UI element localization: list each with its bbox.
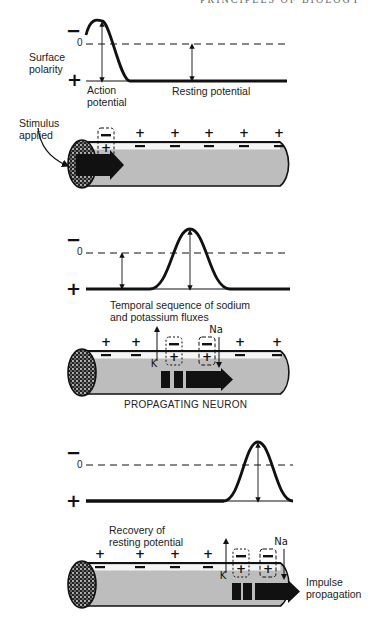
potassium-label: K: [220, 570, 227, 581]
box-minus-sign: [169, 343, 179, 345]
impulse-propagation-label: Impulse propagation: [306, 576, 361, 600]
axis-plus-2: +: [66, 280, 81, 298]
inner-minus-sign: [239, 145, 249, 147]
axon-cross-section: [68, 349, 96, 396]
recovery-caption: Recovery of resting potential: [109, 524, 183, 548]
axis-plus-3: +: [66, 492, 81, 510]
outer-plus-sign: +: [101, 335, 111, 349]
potential-curve: [86, 229, 290, 289]
box-plus-sign: +: [101, 141, 111, 155]
box-minus-sign: [202, 343, 212, 345]
inner-minus-sign: [235, 354, 245, 356]
current-block: [232, 583, 241, 600]
inner-minus-sign: [170, 566, 180, 568]
box-minus-sign: [263, 555, 273, 557]
inner-minus-sign: [272, 354, 282, 356]
outer-plus-sign: +: [131, 335, 141, 349]
box-plus-sign: +: [202, 350, 212, 364]
box-plus-sign: +: [169, 350, 179, 364]
axon-membrane-highlight: [82, 565, 281, 571]
outer-plus-sign: +: [274, 126, 284, 140]
outer-plus-sign: +: [170, 547, 180, 561]
potential-curve: [86, 442, 293, 501]
inner-minus-sign: [204, 145, 214, 147]
stimulus-applied-label: Stimulus applied: [19, 117, 59, 141]
inner-minus-sign: [274, 145, 284, 147]
outer-plus-sign: +: [235, 335, 245, 349]
graph-panel-1: [86, 20, 287, 81]
box-minus-sign: [236, 555, 246, 557]
sodium-label: Na: [274, 536, 288, 547]
box-plus-sign: +: [263, 562, 273, 576]
outer-plus-sign: +: [95, 547, 105, 561]
neuron-propagating: ++++KNa++: [68, 324, 289, 396]
axis-zero-1: 0: [77, 37, 83, 48]
current-block: [161, 371, 170, 388]
current-block: [174, 371, 183, 388]
flux-caption: Temporal sequence of sodium and potassiu…: [110, 299, 250, 323]
potential-curve: [86, 20, 287, 81]
axis-zero-3: 0: [77, 459, 83, 470]
neuron-stimulus: ++++++: [68, 126, 289, 188]
impulse-arrow: [255, 580, 300, 603]
inner-minus-sign: [131, 354, 141, 356]
inner-minus-sign: [203, 566, 213, 568]
potassium-label: K: [151, 358, 158, 369]
inner-minus-sign: [135, 145, 145, 147]
graph-panel-3: [86, 442, 293, 501]
outer-plus-sign: +: [203, 547, 213, 561]
outer-plus-sign: +: [170, 126, 180, 140]
box-minus-sign: [101, 134, 111, 136]
inner-minus-sign: [170, 145, 180, 147]
outer-plus-sign: +: [239, 126, 249, 140]
neuron-recovery: ++++KNa++: [68, 536, 300, 608]
graph-panel-2: [86, 229, 290, 289]
surface-polarity-label: Surface polarity: [29, 51, 65, 75]
resting-potential-label: Resting potential: [172, 85, 250, 97]
inner-minus-sign: [101, 354, 111, 356]
propagating-neuron-title: PROPAGATING NEURON: [124, 399, 247, 411]
outer-plus-sign: +: [135, 126, 145, 140]
inner-minus-sign: [95, 566, 105, 568]
axis-zero-2: 0: [77, 246, 83, 257]
axon-membrane-highlight: [82, 144, 280, 150]
outer-plus-sign: +: [204, 126, 214, 140]
axon-membrane-highlight: [82, 353, 281, 359]
inner-minus-sign: [135, 566, 145, 568]
action-potential-figure: PRINCIPLES OF BIOLOGY ++++++ ++++KNa++ +…: [0, 0, 386, 624]
box-plus-sign: +: [236, 562, 246, 576]
sodium-label: Na: [209, 324, 223, 335]
axis-plus-1: +: [67, 71, 82, 89]
axon-cross-section: [68, 561, 96, 608]
outer-plus-sign: +: [272, 335, 282, 349]
outer-plus-sign: +: [135, 547, 145, 561]
action-potential-label: Action potential: [87, 84, 127, 108]
current-block: [243, 583, 252, 600]
stimulus-block: [76, 154, 92, 176]
